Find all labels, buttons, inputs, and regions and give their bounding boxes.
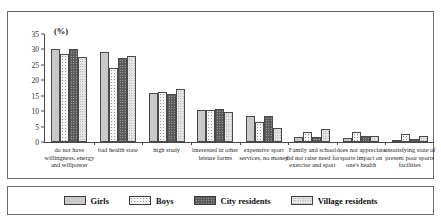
y-axis-tick-mark [41, 111, 44, 112]
bar-3 [321, 129, 330, 142]
bar-2 [69, 49, 78, 142]
bar-group [337, 34, 386, 142]
bar-0 [392, 140, 401, 142]
bar-2 [118, 58, 127, 142]
chart-page: (%) 05101520253035 do not have willingne… [0, 0, 441, 222]
bar-0 [100, 52, 109, 142]
bar-1 [255, 122, 264, 142]
chart-plot-frame: (%) 05101520253035 do not have willingne… [7, 11, 434, 179]
x-axis-category-label: unsatisfying state of present poor sport… [381, 146, 438, 169]
bar-0 [343, 138, 352, 142]
bar-group [191, 34, 240, 142]
y-axis-tick-mark [41, 34, 44, 35]
x-axis-group-tick [288, 142, 289, 145]
legend-swatch-icon [291, 196, 313, 205]
bar-2 [215, 109, 224, 142]
bar-group [142, 34, 191, 142]
legend-item-1[interactable]: Boys [129, 196, 173, 206]
bar-1 [352, 132, 361, 142]
legend-label: City residents [221, 196, 271, 206]
x-axis-group-tick [142, 142, 143, 145]
bar-1 [109, 68, 118, 142]
legend-item-3[interactable]: Village residents [291, 196, 378, 206]
legend-item-2[interactable]: City residents [194, 196, 271, 206]
bar-3 [370, 136, 379, 142]
x-axis-group-tick [337, 142, 338, 145]
bar-0 [197, 110, 206, 142]
bar-2 [361, 136, 370, 142]
y-axis-tick-mark [41, 49, 44, 50]
bar-1 [401, 134, 410, 142]
legend-swatch-icon [129, 196, 151, 205]
bar-3 [127, 56, 136, 142]
bar-2 [264, 116, 273, 142]
bar-1 [60, 54, 69, 142]
bar-3 [273, 128, 282, 142]
chart-legend: GirlsBoysCity residentsVillage residents [7, 186, 434, 215]
bar-1 [158, 92, 167, 142]
x-axis-group-tick [240, 142, 241, 145]
bar-group [288, 34, 337, 142]
bar-1 [303, 132, 312, 142]
y-axis-tick-mark [41, 95, 44, 96]
bar-2 [312, 137, 321, 142]
legend-item-0[interactable]: Girls [64, 196, 109, 206]
bar-3 [419, 136, 428, 142]
x-axis-group-tick [385, 142, 386, 145]
bar-group [385, 34, 434, 142]
y-axis-tick-mark [41, 64, 44, 65]
bar-group [94, 34, 143, 142]
bar-0 [51, 49, 60, 142]
legend-swatch-icon [64, 196, 86, 205]
y-axis-tick-mark [41, 126, 44, 127]
legend-label: Boys [156, 196, 173, 206]
bar-3 [176, 89, 185, 142]
bar-group [240, 34, 289, 142]
legend-swatch-icon [194, 196, 216, 205]
bar-0 [149, 93, 158, 142]
bar-3 [224, 112, 233, 142]
bar-2 [167, 94, 176, 142]
top-cropped-text [0, 0, 441, 9]
legend-label: Girls [91, 196, 109, 206]
legend-label: Village residents [318, 196, 378, 206]
bar-group [45, 34, 94, 142]
y-axis-tick-mark [41, 142, 44, 143]
bar-2 [410, 139, 419, 142]
bars-area [45, 34, 434, 142]
y-axis-tick-mark [41, 80, 44, 81]
bar-1 [206, 110, 215, 142]
bar-0 [246, 116, 255, 142]
x-axis-group-tick [94, 142, 95, 145]
bar-3 [78, 57, 87, 142]
bar-0 [294, 137, 303, 142]
x-axis-group-tick [191, 142, 192, 145]
